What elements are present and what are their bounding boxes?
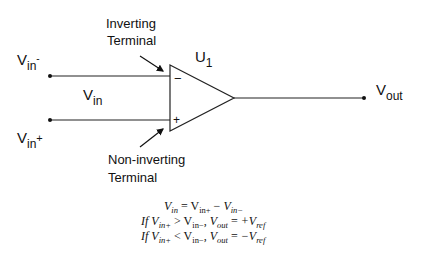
minus-sign: −: [174, 71, 182, 86]
equation-1: Vin = Vin+ − Vin−: [164, 199, 243, 215]
inverting-arrow: [140, 56, 163, 71]
component-designator: U1: [195, 48, 213, 70]
non-inverting-arrow: [140, 129, 163, 147]
op-amp-diagram: − + Inverting Terminal Non-inverting Ter…: [0, 0, 424, 269]
plus-sign: +: [173, 113, 180, 127]
equation-2: If Vin+ > Vin−, Vout = +Vref: [140, 214, 267, 230]
vout-label: Vout: [376, 81, 403, 103]
vin-minus-node: [48, 74, 52, 78]
vin-label: Vin: [83, 86, 102, 108]
vin-plus-label: Vin+: [17, 129, 43, 151]
inverting-terminal-label-line1: Inverting: [106, 16, 156, 31]
non-inverting-terminal-label-line1: Non-inverting: [108, 152, 185, 167]
inverting-terminal-label-line2: Terminal: [107, 33, 156, 48]
non-inverting-terminal-label-line2: Terminal: [108, 170, 157, 185]
vin-plus-node: [48, 118, 52, 122]
equation-3: If Vin+ < Vin−, Vout = −Vref: [140, 229, 267, 245]
vout-node: [362, 96, 366, 100]
vin-minus-label: Vin-: [17, 51, 40, 73]
